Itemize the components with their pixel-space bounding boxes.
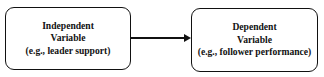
independent-variable-node: Independent Variable (e.g., leader suppo… [5,7,131,70]
node-subtitle: Variable [237,34,272,47]
node-subtitle: Variable [51,32,86,45]
node-example: (e.g., leader support) [26,45,111,58]
node-example: (e.g., follower performance) [198,46,312,59]
node-title: Independent [42,20,94,33]
dependent-variable-node: Dependent Variable (e.g., follower perfo… [191,8,318,72]
arrow-head-icon [184,34,191,42]
arrow-connector [131,37,185,39]
node-title: Dependent [232,21,276,34]
